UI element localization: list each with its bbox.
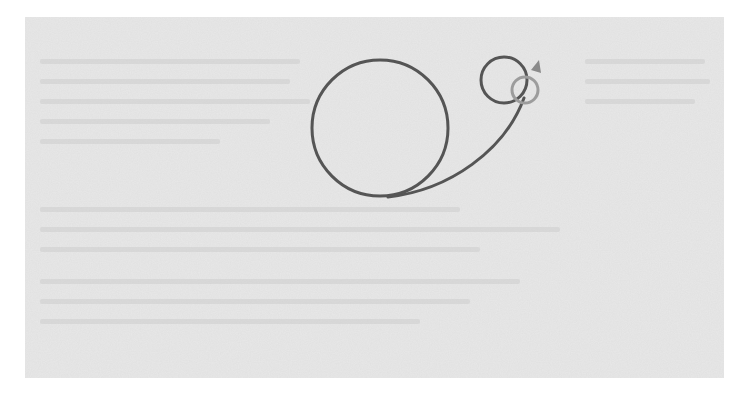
large-circle (312, 60, 448, 196)
small-circle (481, 57, 527, 103)
connector-curve (388, 98, 524, 197)
path-diagram (0, 0, 750, 400)
arrowhead-icon (531, 60, 541, 73)
